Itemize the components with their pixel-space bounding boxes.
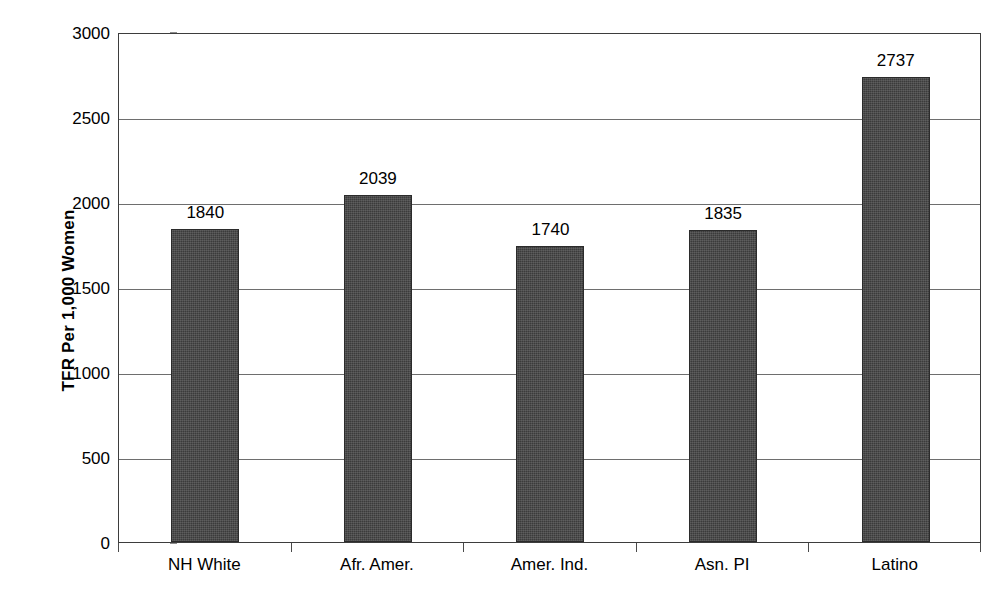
plot-area: 18402039174018352737 bbox=[118, 33, 981, 543]
y-axis-tick-labels: 050010001500200025003000 bbox=[58, 33, 110, 543]
x-axis-tick-mark bbox=[808, 543, 809, 552]
bar bbox=[344, 195, 412, 542]
x-axis-tick-marks bbox=[118, 543, 981, 552]
bar-value-label: 1835 bbox=[704, 205, 742, 222]
x-axis-category-label: Latino bbox=[872, 556, 918, 573]
y-axis-tick-label: 2500 bbox=[72, 110, 110, 127]
bar-value-label: 1840 bbox=[186, 204, 224, 221]
x-axis-tick-mark bbox=[118, 543, 119, 552]
bar-group: 2737 bbox=[809, 34, 982, 542]
bar bbox=[689, 230, 757, 542]
y-axis-tick-label: 2000 bbox=[72, 195, 110, 212]
y-axis-tick-label: 1000 bbox=[72, 365, 110, 382]
x-axis-labels: NH WhiteAfr. Amer.Amer. Ind.Asn. PILatin… bbox=[118, 556, 981, 586]
y-axis-tick-label: 1500 bbox=[72, 280, 110, 297]
y-axis-tick-label: 500 bbox=[82, 450, 110, 467]
bar-group: 2039 bbox=[292, 34, 465, 542]
x-axis-tick-mark bbox=[291, 543, 292, 552]
bar-chart: TFR Per 1,000 Women 05001000150020002500… bbox=[0, 0, 1003, 601]
x-axis-category-label: Afr. Amer. bbox=[340, 556, 414, 573]
bar-group: 1835 bbox=[637, 34, 810, 542]
x-axis-tick-mark bbox=[463, 543, 464, 552]
bar-group: 1840 bbox=[119, 34, 292, 542]
y-axis-tick-label: 0 bbox=[101, 535, 110, 552]
x-axis-tick-mark bbox=[980, 543, 981, 552]
bar bbox=[516, 246, 584, 542]
x-axis-category-label: Amer. Ind. bbox=[511, 556, 588, 573]
x-axis-category-label: Asn. PI bbox=[695, 556, 750, 573]
x-axis-tick-mark bbox=[636, 543, 637, 552]
bar bbox=[171, 229, 239, 542]
x-axis-category-label: NH White bbox=[168, 556, 241, 573]
bars-layer: 18402039174018352737 bbox=[119, 34, 980, 542]
bar-value-label: 2039 bbox=[359, 170, 397, 187]
bar-group: 1740 bbox=[464, 34, 637, 542]
bar-value-label: 1740 bbox=[532, 221, 570, 238]
bar-value-label: 2737 bbox=[877, 52, 915, 69]
y-axis-tick-label: 3000 bbox=[72, 25, 110, 42]
bar bbox=[862, 77, 930, 542]
